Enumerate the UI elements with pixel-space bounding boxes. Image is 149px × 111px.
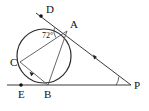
angle-arc-at-a (54, 28, 56, 38)
point-label-c: C (10, 56, 17, 68)
point-label-e: E (18, 88, 25, 100)
point-dot-e (19, 83, 23, 87)
point-label-d: D (46, 3, 54, 15)
line-d-to-p (36, 13, 131, 85)
point-label-a: A (70, 18, 78, 30)
point-dot-d (39, 14, 43, 18)
point-label-b: B (44, 88, 51, 100)
geometry-diagram: D A C E B P 72° (0, 0, 149, 111)
angle-label-72: 72° (42, 31, 53, 40)
geometry-canvas: D A C E B P 72° (0, 0, 149, 111)
point-label-p: P (134, 79, 140, 91)
angle-arc-at-p (116, 77, 119, 85)
